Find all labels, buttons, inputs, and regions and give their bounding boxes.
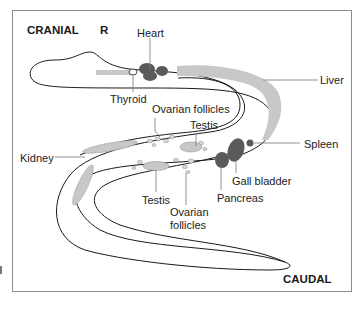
- ovarian-follicles-bottom-label-line2: follicles: [170, 219, 206, 231]
- spleen-shape: [247, 140, 254, 147]
- pancreas-shape: [215, 152, 229, 168]
- thyroid-shape: [129, 69, 137, 75]
- spleen-label: Spleen: [304, 138, 338, 150]
- testis-bottom-label: Testis: [142, 194, 170, 206]
- testis-bottom-shape: [143, 162, 169, 171]
- pancreas-label: Pancreas: [217, 192, 263, 204]
- ovarian-follicles-top-label: Ovarian follicles: [152, 103, 230, 115]
- testis-top-shape: [180, 142, 202, 152]
- gall-bladder-label: Gall bladder: [232, 175, 291, 187]
- thyroid-label: Thyroid: [110, 93, 147, 105]
- kidney-label: Kidney: [20, 152, 54, 164]
- heart-shape: [139, 63, 168, 81]
- right-side-label: R: [100, 24, 108, 36]
- heart-label: Heart: [137, 27, 164, 39]
- ovarian-follicles-bottom-label-line1: Ovarian: [170, 206, 206, 218]
- caudal-label: CAUDAL: [283, 273, 332, 285]
- organ-diagram: [0, 0, 360, 316]
- trachea-shape: [96, 70, 132, 75]
- liver-label: Liver: [320, 74, 344, 86]
- testis-top-label: Testis: [190, 119, 218, 131]
- cranial-label: CRANIAL: [27, 24, 79, 36]
- body-outline-inner-upper: [80, 78, 240, 155]
- kidney-shape: [69, 138, 138, 207]
